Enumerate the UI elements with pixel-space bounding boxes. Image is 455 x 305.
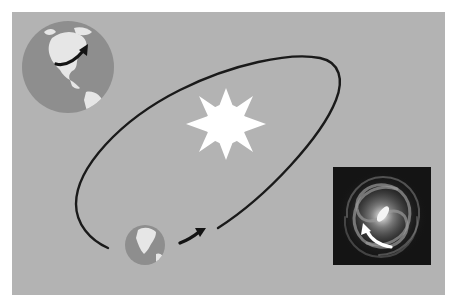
earth-orbit-path: [76, 56, 340, 248]
earth-rotation-globe: [22, 21, 114, 124]
orbit-direction-arrow-icon: [180, 228, 206, 243]
small-earth-globe: [125, 225, 165, 265]
sun-core: [206, 104, 246, 144]
galaxy-image: [333, 167, 431, 265]
spiral-galaxy-icon: [333, 167, 431, 265]
